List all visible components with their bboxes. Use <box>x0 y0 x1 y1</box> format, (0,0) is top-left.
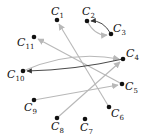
node-label: C6 <box>111 107 124 122</box>
edge-c2-to-c3 <box>87 21 107 35</box>
node-label: C8 <box>51 120 64 135</box>
node-label: C1 <box>51 5 64 20</box>
edge-c3-to-c2 <box>91 21 111 34</box>
directed-graph: C1C2C3C11C4C10C5C9C6C8C7 <box>0 0 144 140</box>
node-c11: C11 <box>17 35 36 51</box>
node-c1: C1 <box>51 5 64 22</box>
node-label: C5 <box>125 80 138 95</box>
node-label: C11 <box>17 36 34 51</box>
node-dot <box>121 57 126 62</box>
node-c8: C8 <box>51 116 64 135</box>
node-label: C3 <box>113 22 126 37</box>
node-c10: C10 <box>7 68 25 83</box>
node-label: C7 <box>80 121 93 136</box>
node-c4: C4 <box>121 47 140 62</box>
node-dot <box>120 82 125 87</box>
node-dot <box>21 69 26 74</box>
node-label: C9 <box>24 101 37 116</box>
node-c5: C5 <box>120 80 138 95</box>
node-label: C2 <box>82 5 95 20</box>
node-dot <box>85 19 90 24</box>
node-label: C4 <box>126 47 139 62</box>
node-c7: C7 <box>80 117 93 136</box>
edge-c9-to-c5 <box>34 85 118 100</box>
node-c9: C9 <box>24 98 37 116</box>
edges-layer <box>23 21 123 118</box>
node-c3: C3 <box>109 22 126 37</box>
nodes-layer: C1C2C3C11C4C10C5C9C6C8C7 <box>7 5 139 136</box>
edge-c10-to-c4 <box>23 56 119 71</box>
edge-c4-to-c10 <box>27 59 123 71</box>
node-c6: C6 <box>107 105 125 122</box>
node-dot <box>32 35 37 40</box>
